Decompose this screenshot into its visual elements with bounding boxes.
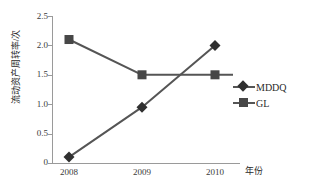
legend-label: MDDQ (255, 82, 287, 93)
series-mddq (64, 40, 221, 163)
x-tick-label: 2010 (195, 167, 235, 177)
y-tick-mark (48, 104, 52, 105)
y-tick-label: 0.5 (37, 129, 48, 138)
y-axis-line (52, 16, 53, 164)
y-tick-mark (48, 163, 52, 164)
square-data-point (138, 70, 147, 79)
y-tick-label: 1.0 (37, 100, 48, 109)
y-tick-label: 2.5 (37, 12, 48, 21)
x-axis-line (52, 163, 240, 164)
series-gl (65, 35, 234, 79)
chart-container: 流动资产周转率/次 2.5 2.0 1.5 1.0 0.5 0 2008 200… (0, 0, 312, 196)
legend-label: GL (255, 98, 269, 109)
y-tick-mark (48, 16, 52, 17)
y-tick-mark (48, 45, 52, 46)
y-tick-mark (48, 134, 52, 135)
legend-item-gl[interactable]: GL (233, 95, 287, 111)
y-tick-mark (48, 75, 52, 76)
y-axis-tick-labels: 2.5 2.0 1.5 1.0 0.5 0 (22, 16, 48, 163)
square-data-point (211, 70, 220, 79)
diamond-data-point (210, 40, 221, 51)
diamond-marker-icon (233, 81, 255, 93)
square-marker-icon (233, 97, 255, 109)
diamond-data-point (64, 152, 75, 163)
x-tick-label: 2009 (122, 167, 162, 177)
diamond-data-point (137, 102, 148, 113)
chart-legend: MDDQ GL (233, 79, 287, 111)
square-data-point (65, 35, 74, 44)
y-axis-title: 流动资产周转率/次 (11, 5, 21, 129)
legend-item-mddq[interactable]: MDDQ (233, 79, 287, 95)
x-axis-title: 年份 (245, 166, 263, 176)
y-tick-label: 2.0 (37, 41, 48, 50)
x-tick-label: 2008 (49, 167, 89, 177)
y-tick-label: 1.5 (37, 70, 48, 79)
